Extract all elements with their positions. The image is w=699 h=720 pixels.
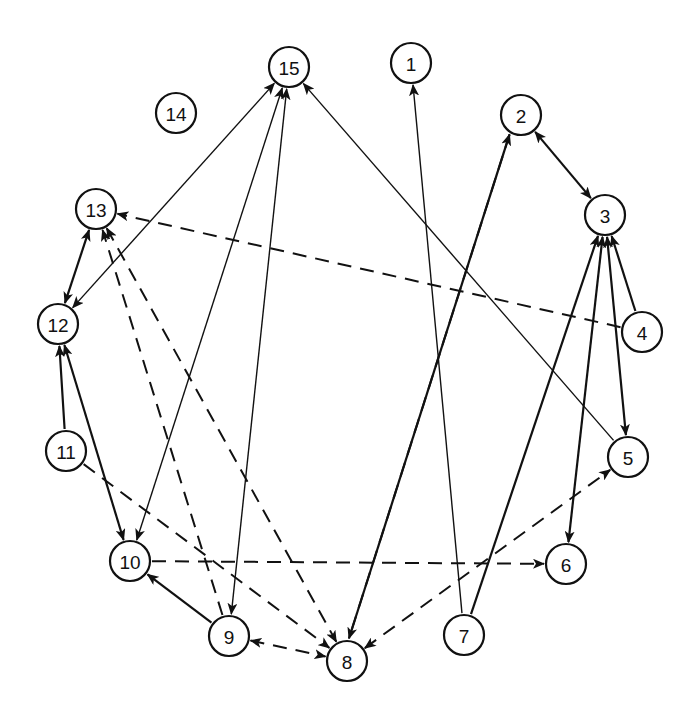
node-5: 5 bbox=[608, 437, 648, 477]
node-label: 5 bbox=[623, 448, 634, 469]
edge-12-to-13-bidirectional bbox=[65, 230, 89, 303]
node-label: 6 bbox=[561, 555, 572, 576]
node-1: 1 bbox=[391, 43, 431, 83]
node-2: 2 bbox=[501, 95, 541, 135]
node-11: 11 bbox=[46, 431, 86, 471]
node-13: 13 bbox=[76, 189, 116, 229]
node-label: 1 bbox=[406, 54, 417, 75]
node-label: 12 bbox=[47, 315, 68, 336]
edge-9-to-10 bbox=[148, 574, 212, 622]
edge-7-to-1 bbox=[413, 85, 462, 613]
directed-graph-diagram: 123456789101112131415 bbox=[0, 0, 699, 720]
node-14: 14 bbox=[156, 93, 196, 133]
node-15: 15 bbox=[269, 47, 309, 87]
node-label: 7 bbox=[459, 626, 470, 647]
node-label: 4 bbox=[637, 323, 648, 344]
edge-5-to-15 bbox=[303, 84, 613, 441]
node-label: 10 bbox=[119, 552, 140, 573]
edge-2-to-3-bidirectional bbox=[535, 132, 591, 198]
node-label: 11 bbox=[56, 442, 76, 463]
node-7: 7 bbox=[444, 615, 484, 655]
node-10: 10 bbox=[110, 541, 150, 581]
node-label: 9 bbox=[224, 627, 235, 648]
node-label: 15 bbox=[278, 58, 299, 79]
nodes-layer: 123456789101112131415 bbox=[38, 43, 662, 681]
node-label: 3 bbox=[600, 206, 611, 227]
edge-13-to-8-bidirectional bbox=[107, 228, 337, 642]
node-3: 3 bbox=[585, 195, 625, 235]
node-4: 4 bbox=[622, 312, 662, 352]
edge-4-to-3 bbox=[612, 236, 636, 311]
edge-4-to-13 bbox=[117, 214, 620, 327]
edge-11-to-12 bbox=[59, 346, 64, 429]
node-label: 2 bbox=[516, 106, 527, 127]
node-12: 12 bbox=[38, 304, 78, 344]
node-9: 9 bbox=[209, 616, 249, 656]
node-6: 6 bbox=[546, 544, 586, 584]
node-label: 13 bbox=[85, 200, 106, 221]
node-label: 14 bbox=[165, 104, 187, 125]
node-8: 8 bbox=[327, 641, 367, 681]
node-label: 8 bbox=[342, 652, 353, 673]
edge-9-to-8-bidirectional bbox=[251, 641, 326, 657]
edge-9-to-15-bidirectional bbox=[231, 89, 286, 614]
